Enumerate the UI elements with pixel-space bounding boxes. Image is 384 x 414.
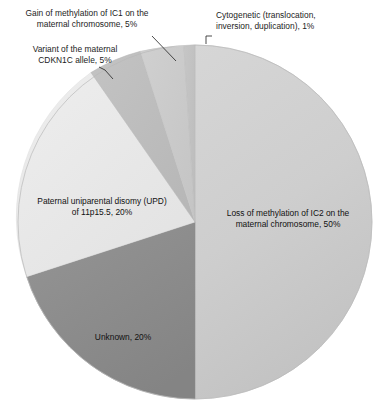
slice-label-ic1-gain: Gain of methylation of IC1 on the matern… xyxy=(4,8,170,30)
slice-label-unknown: Unknown, 20% xyxy=(68,332,178,343)
slice-label-cdkn1c-variant: Variant of the maternal CDKN1C allele, 5… xyxy=(4,44,146,66)
slice-label-ic2-loss: Loss of methylation of IC2 on the matern… xyxy=(200,208,376,231)
pie-chart: Gain of methylation of IC1 on the matern… xyxy=(0,0,384,414)
leader-line-cytogenetic xyxy=(206,36,212,44)
slice-label-upd: Paternal uniparental disomy (UPD) of 11p… xyxy=(14,196,190,219)
slice-label-cytogenetic: Cytogenetic (translocation, inversion, d… xyxy=(216,10,382,32)
